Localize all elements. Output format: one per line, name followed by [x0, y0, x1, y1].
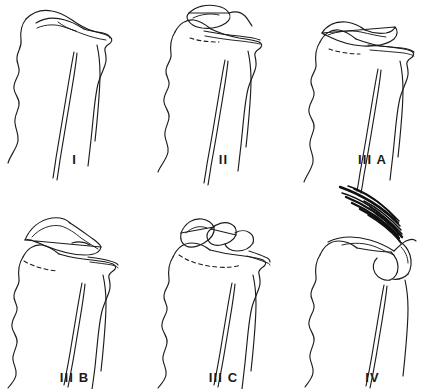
muscle-hatching: [340, 186, 402, 243]
dashed-reference-line: [190, 38, 219, 42]
panel-label-type-1: I: [0, 153, 149, 166]
panel-label-type-2: II: [149, 153, 298, 166]
panel-type-4: IV: [298, 185, 447, 389]
scapula-outline: [158, 243, 266, 389]
panel-type-2: II: [149, 0, 298, 194]
dashed-reference-line: [24, 261, 58, 271]
clavicle-fragment: [25, 218, 101, 255]
clavicle-fragment: [187, 5, 252, 28]
panel-type-3c: III C: [149, 195, 298, 389]
panel-type-3b: III B: [0, 195, 149, 389]
clavicle-fragment-medial: [181, 219, 214, 247]
panel-type-3a: III A: [298, 0, 447, 194]
panel-label-type-3b: III B: [0, 371, 149, 384]
classification-figure: I: [0, 0, 447, 389]
scapula-outline: [8, 10, 112, 166]
clavicle-fragment-middle: [207, 223, 236, 246]
clavicle-lateral: [88, 257, 118, 268]
clavicle-fragment: [322, 22, 397, 46]
panel-type-1: I: [0, 0, 149, 194]
panel-label-type-3c: III C: [149, 371, 298, 384]
clavicle-lateral: [368, 45, 414, 56]
dashed-reference-line: [179, 255, 241, 267]
scapula-outline: [305, 241, 391, 387]
clavicle-displaced: [328, 237, 416, 280]
scapula-outline: [8, 245, 116, 389]
panel-label-type-4: IV: [298, 371, 447, 384]
panel-label-type-3a: III A: [298, 153, 447, 166]
clavicle-outline: [36, 18, 110, 40]
dashed-reference-line: [329, 49, 360, 54]
